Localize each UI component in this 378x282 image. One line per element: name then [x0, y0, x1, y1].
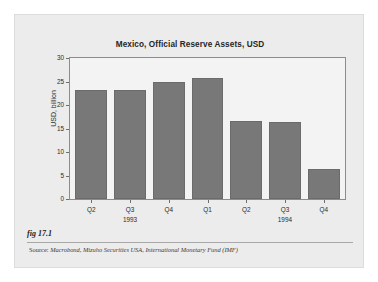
figure-number: fig 17.1	[27, 229, 52, 238]
x-tick-mark	[169, 200, 170, 203]
bar-slot	[111, 58, 150, 199]
x-tick: Q3	[111, 201, 150, 213]
source-text: Macrobond, Mizuho Securities USA, Intern…	[50, 246, 238, 253]
y-tick-label: 0	[60, 195, 64, 202]
x-tick-label: Q3	[111, 206, 150, 213]
bar-series	[70, 58, 345, 199]
x-axis-year-label: 1993	[123, 216, 137, 223]
source-lead: Source:	[29, 246, 49, 253]
x-tick: Q2	[227, 201, 266, 213]
bar	[230, 121, 262, 199]
x-tick: Q1	[188, 201, 227, 213]
y-tick-label: 25	[57, 78, 64, 85]
x-tick: Q4	[304, 201, 343, 213]
y-tick-mark	[66, 82, 69, 83]
x-tick-mark	[246, 200, 247, 203]
y-tick-mark	[66, 58, 69, 59]
bar	[269, 122, 301, 199]
x-tick-label: Q2	[227, 206, 266, 213]
bar	[153, 82, 185, 199]
x-tick: Q4	[149, 201, 188, 213]
bar-slot	[304, 58, 343, 199]
x-tick-label: Q1	[188, 206, 227, 213]
x-axis-group-labels: 19931994	[70, 216, 345, 226]
y-tick-label: 15	[57, 125, 64, 132]
x-tick-label: Q4	[304, 206, 343, 213]
bar-slot	[227, 58, 266, 199]
y-axis-label: USD, billion	[50, 64, 57, 154]
x-tick: Q3	[266, 201, 305, 213]
y-tick-mark	[66, 105, 69, 106]
x-tick-mark	[208, 200, 209, 203]
chart-plot-area: USD, billion 051015202530 Q2Q3Q4Q1Q2Q3Q4…	[46, 57, 346, 202]
bar	[192, 78, 224, 199]
bar-slot	[72, 58, 111, 199]
bar	[308, 169, 340, 199]
bar	[75, 90, 107, 199]
y-tick-mark	[66, 129, 69, 130]
y-tick-mark	[66, 199, 69, 200]
x-tick-mark	[130, 200, 131, 203]
x-axis-year-label: 1994	[278, 216, 292, 223]
y-tick-label: 10	[57, 148, 64, 155]
x-tick: Q2	[72, 201, 111, 213]
x-tick-label: Q2	[72, 206, 111, 213]
x-tick-label: Q3	[266, 206, 305, 213]
y-tick-mark	[66, 176, 69, 177]
figure-card: Mexico, Official Reserve Assets, USD USD…	[14, 14, 364, 268]
bar	[114, 90, 146, 199]
x-tick-mark	[285, 200, 286, 203]
x-axis-ticks: Q2Q3Q4Q1Q2Q3Q4	[70, 201, 345, 213]
bar-slot	[149, 58, 188, 199]
y-tick-label: 5	[60, 172, 64, 179]
caption-divider	[27, 242, 353, 243]
screenshot-page: Mexico, Official Reserve Assets, USD USD…	[0, 0, 378, 282]
bar-slot	[266, 58, 305, 199]
y-tick-label: 30	[57, 54, 64, 61]
bar-slot	[188, 58, 227, 199]
x-tick-mark	[91, 200, 92, 203]
y-tick-mark	[66, 152, 69, 153]
chart-title: Mexico, Official Reserve Assets, USD	[15, 40, 365, 49]
x-tick-mark	[324, 200, 325, 203]
y-tick-label: 20	[57, 101, 64, 108]
source-note: Source: Macrobond, Mizuho Securities USA…	[29, 246, 238, 253]
x-tick-label: Q4	[149, 206, 188, 213]
